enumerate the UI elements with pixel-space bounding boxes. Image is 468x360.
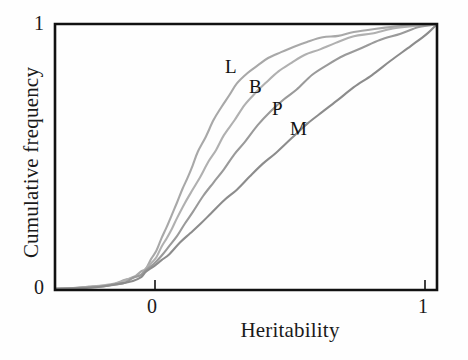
curve-label-b: B bbox=[249, 76, 262, 98]
y-axis-label: Cumulative frequency bbox=[19, 48, 44, 278]
curve-b bbox=[55, 24, 437, 289]
curve-label-m: M bbox=[290, 118, 307, 140]
plot-area bbox=[0, 0, 468, 360]
curve-l bbox=[55, 24, 437, 289]
curve-m bbox=[55, 24, 437, 289]
x-tick-label-1: 1 bbox=[418, 295, 428, 318]
axis-frame bbox=[55, 24, 437, 290]
curve-label-p: P bbox=[272, 98, 283, 120]
x-tick-label-0: 0 bbox=[147, 295, 157, 318]
curve-label-l: L bbox=[225, 56, 237, 78]
y-tick-label-1: 1 bbox=[34, 12, 44, 35]
y-tick-label-0: 0 bbox=[34, 276, 44, 299]
x-axis-label: Heritability bbox=[155, 318, 425, 343]
curve-p bbox=[55, 24, 437, 289]
curves-group bbox=[55, 24, 437, 289]
chart-figure: Cumulative frequency Heritability 1 0 0 … bbox=[0, 0, 468, 360]
